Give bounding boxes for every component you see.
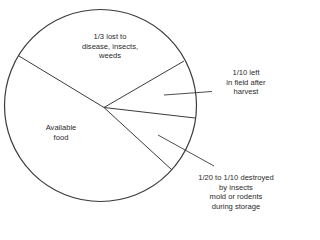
slice-label-available-food: Available food	[36, 123, 86, 142]
label-line: Available	[36, 123, 86, 133]
slice-label-field: 1/10 left in field after harvest	[206, 68, 286, 97]
label-line: in field after	[206, 78, 286, 88]
label-line: disease, insects,	[68, 42, 152, 52]
slice-label-storage: 1/20 to 1/10 destroyed by insects mold o…	[180, 173, 292, 211]
label-line: 1/20 to 1/10 destroyed	[180, 173, 292, 183]
label-line: 1/10 left	[206, 68, 286, 78]
label-line: weeds	[68, 51, 152, 61]
label-line: harvest	[206, 87, 286, 97]
label-line: mold or rodents	[180, 192, 292, 202]
label-line: by insects	[180, 183, 292, 193]
slice-label-disease: 1/3 lost to disease, insects, weeds	[68, 32, 152, 61]
label-line: during storage	[180, 202, 292, 212]
label-line: 1/3 lost to	[68, 32, 152, 42]
label-line: food	[36, 133, 86, 143]
